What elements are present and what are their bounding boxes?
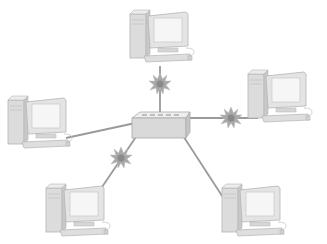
computer-pc-top [130,10,194,62]
computer-pc-right [248,70,312,122]
hub [132,112,190,138]
computer-pc-bottom-right [222,184,286,236]
computer-pc-left [8,96,72,148]
network-diagram [0,0,327,244]
diagram-canvas [0,0,327,244]
cable-pc-bottom-right [178,128,226,202]
cable-pc-left [66,122,140,138]
collision-burst-icon [220,107,242,128]
computer-pc-bottom-left [46,184,110,236]
collision-burst-icon [110,147,132,168]
